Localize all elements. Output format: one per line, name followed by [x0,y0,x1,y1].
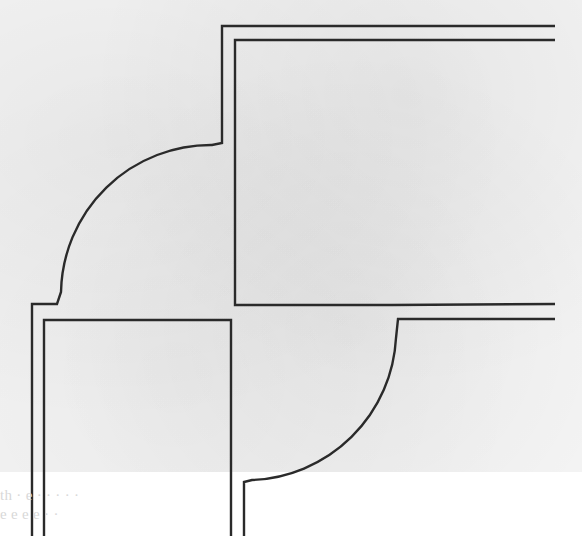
upper-left-outer-outline [32,26,555,536]
caption-ghost-line-1: th · e · · · · · [0,487,582,504]
corner-fillet-drawing [0,0,582,556]
caption-ghost-line-2: e e e e · · [0,506,582,523]
upper-right-block-inner-outline [235,40,555,305]
figure-canvas: th · e · · · · · e e e e · · [0,0,582,556]
